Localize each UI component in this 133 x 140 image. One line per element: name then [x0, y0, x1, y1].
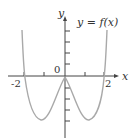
x-ticks — [24, 72, 104, 76]
function-label: y = f(x) — [76, 16, 118, 29]
function-graph: y x y = f(x) 0 -2 2 — [0, 0, 133, 140]
origin-label: 0 — [54, 64, 60, 75]
x-tick-label-2: 2 — [105, 78, 111, 89]
y-axis-label: y — [57, 7, 65, 20]
x-axis-arrow-icon — [114, 74, 119, 78]
x-axis-label: x — [122, 70, 129, 83]
x-tick-label-neg2: -2 — [11, 78, 21, 89]
